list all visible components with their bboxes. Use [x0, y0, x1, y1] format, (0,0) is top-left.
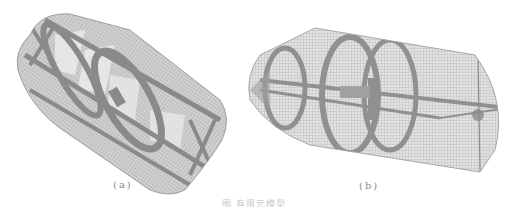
- panel-label-a: (a): [113, 179, 133, 190]
- wireframe-model-a: [0, 0, 240, 195]
- panel-label-b: (b): [359, 180, 379, 191]
- figure-panel-b: [240, 0, 508, 195]
- wireframe-model-b: [240, 0, 508, 195]
- figure-caption: 图 有限元模型: [0, 197, 508, 207]
- figure-panel-a: [0, 0, 240, 195]
